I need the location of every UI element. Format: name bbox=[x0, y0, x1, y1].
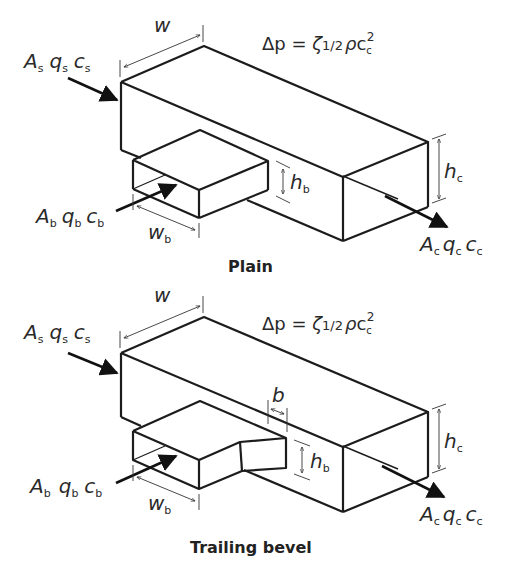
dimension-hb bbox=[294, 440, 310, 480]
label-outlet: Acqccc bbox=[418, 502, 483, 528]
main-duct bbox=[121, 46, 428, 241]
label-b: b bbox=[272, 383, 285, 407]
label-inlet-branch: Abqbcb bbox=[34, 204, 104, 230]
label-outlet: Acqccc bbox=[418, 232, 483, 258]
branch-duct bbox=[133, 130, 268, 218]
label-hb: hb bbox=[290, 170, 310, 196]
label-inlet-branch: Abqbcb bbox=[28, 474, 102, 500]
label-hb: hb bbox=[310, 449, 330, 475]
label-inlet-straight: Asqscs bbox=[22, 320, 91, 346]
label-hc: hc bbox=[444, 159, 463, 185]
main-duct bbox=[121, 317, 428, 512]
label-w: w bbox=[154, 283, 171, 307]
label-hc: hc bbox=[444, 429, 463, 455]
formula: Δp = ζ1/2ρcc2 bbox=[262, 310, 374, 336]
inlet-branch-arrow bbox=[116, 456, 176, 483]
inlet-branch-arrow bbox=[116, 185, 176, 211]
label-inlet-straight: Asqscs bbox=[22, 49, 91, 75]
dimension-hb bbox=[276, 161, 290, 203]
figure-trailing-bevel: Asqscs Abqbcb Acqccc w b wb hb hc Δp = ζ… bbox=[22, 283, 483, 557]
caption-trailing-bevel: Trailing bevel bbox=[190, 538, 312, 557]
label-wb: wb bbox=[148, 491, 171, 517]
inlet-straight-arrow bbox=[68, 353, 117, 373]
figure-plain: Asqscs Abqbcb Acqccc w wb hb hc Δp = ζ1/… bbox=[22, 13, 483, 276]
junction-diagram: Asqscs Abqbcb Acqccc w wb hb hc Δp = ζ1/… bbox=[0, 0, 505, 561]
formula: Δp = ζ1/2ρcc2 bbox=[262, 30, 374, 56]
inlet-straight-arrow bbox=[68, 78, 117, 100]
label-w: w bbox=[154, 13, 171, 37]
caption-plain: Plain bbox=[228, 257, 273, 276]
label-wb: wb bbox=[148, 220, 171, 246]
